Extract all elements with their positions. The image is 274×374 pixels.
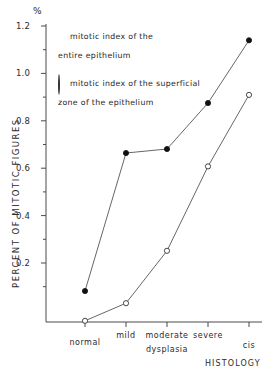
legend: mitotic index of the entire epithelium m…: [58, 24, 200, 118]
data-point-open-moderate: [164, 248, 169, 253]
series-superficial-zone: [82, 92, 251, 323]
data-point-open-cis: [246, 92, 251, 97]
x-tick-label-moderate: moderate: [143, 331, 191, 340]
data-point-filled-mild: [123, 150, 128, 155]
x-ticks: [85, 322, 249, 327]
data-point-open-severe: [205, 164, 210, 169]
legend-label-entire-epithelium: mitotic index of the entire epithelium: [58, 32, 153, 60]
x-tick-label-dysplasia: dysplasia: [143, 345, 191, 354]
data-point-filled-moderate: [164, 146, 169, 151]
x-axis-title: HISTOLOGY: [205, 359, 261, 368]
open-circle-icon: [58, 75, 60, 94]
x-tick-label-normal: normal: [65, 338, 105, 347]
data-point-filled-severe: [205, 100, 210, 105]
data-point-open-normal: [82, 318, 87, 323]
data-point-filled-cis: [246, 38, 251, 43]
x-tick-label-mild: mild: [108, 331, 144, 340]
x-tick-label-cis: cis: [235, 341, 263, 350]
legend-label-superficial-zone: mitotic index of the superficial zone of…: [58, 79, 200, 107]
legend-item-entire-epithelium: mitotic index of the entire epithelium: [58, 24, 200, 62]
x-tick-label-severe: severe: [187, 331, 229, 340]
legend-item-superficial-zone: mitotic index of the superficial zone of…: [58, 71, 200, 109]
data-point-filled-normal: [82, 288, 87, 293]
chart-root: % 1.2 1.0 0.8 0.6 0.4 0.2 PERCENT OF MIT…: [0, 0, 274, 374]
data-point-open-mild: [123, 301, 128, 306]
